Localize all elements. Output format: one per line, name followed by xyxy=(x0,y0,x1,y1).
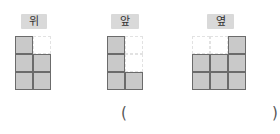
filled-cell xyxy=(107,36,125,54)
filled-cell xyxy=(125,72,143,90)
empty-cell xyxy=(125,54,143,72)
filled-cell xyxy=(192,54,210,72)
filled-cell xyxy=(228,36,246,54)
side-view-label: 옆 xyxy=(207,14,234,29)
filled-cell xyxy=(210,72,228,90)
filled-cell xyxy=(228,72,246,90)
filled-cell xyxy=(107,72,125,90)
empty-cell xyxy=(125,36,143,54)
answer-close-paren: ) xyxy=(272,104,278,122)
top-view-label: 위 xyxy=(21,14,47,29)
filled-cell xyxy=(15,72,33,90)
filled-cell xyxy=(210,54,228,72)
side-view-grid xyxy=(192,36,246,90)
filled-cell xyxy=(107,54,125,72)
answer-blank[interactable] xyxy=(132,106,268,124)
empty-cell xyxy=(210,36,228,54)
top-view-grid xyxy=(15,36,51,90)
front-view-grid xyxy=(107,36,143,90)
filled-cell xyxy=(33,72,51,90)
filled-cell xyxy=(192,72,210,90)
filled-cell xyxy=(33,54,51,72)
front-view-label: 앞 xyxy=(111,14,139,29)
filled-cell xyxy=(228,54,246,72)
empty-cell xyxy=(192,36,210,54)
answer-open-paren: ( xyxy=(121,104,127,122)
filled-cell xyxy=(15,36,33,54)
filled-cell xyxy=(15,54,33,72)
empty-cell xyxy=(33,36,51,54)
